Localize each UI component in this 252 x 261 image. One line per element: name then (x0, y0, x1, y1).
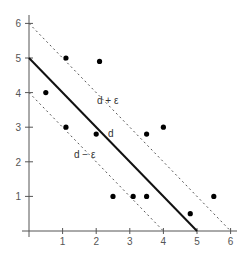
data-point (144, 194, 149, 199)
label-upper-band: d + ε (97, 95, 119, 106)
data-point (131, 194, 136, 199)
x-tick-label: 5 (194, 236, 200, 247)
y-tick-label: 1 (15, 191, 21, 202)
center-line (29, 58, 197, 231)
label-lower-band: d − ε (74, 149, 96, 160)
y-tick-label: 5 (15, 53, 21, 64)
data-point (110, 194, 115, 199)
y-tick-label: 2 (15, 157, 21, 168)
x-tick-label: 2 (93, 236, 99, 247)
label-center-line: d (108, 128, 114, 139)
data-point (94, 132, 99, 137)
data-point (63, 55, 68, 60)
data-point (97, 59, 102, 64)
band-line (29, 23, 231, 231)
data-point (188, 211, 193, 216)
data-point (211, 194, 216, 199)
y-tick-label: 3 (15, 122, 21, 133)
regression-lines (29, 23, 231, 231)
y-tick-label: 6 (15, 18, 21, 29)
band-line (29, 93, 163, 231)
data-point (43, 90, 48, 95)
y-tick-label: 4 (15, 88, 21, 99)
x-tick-label: 3 (127, 236, 133, 247)
data-point (161, 125, 166, 130)
x-tick-label: 4 (161, 236, 167, 247)
x-tick-label: 1 (60, 236, 66, 247)
y-ticks: 123456 (15, 18, 33, 202)
data-points (43, 55, 216, 216)
scatter-chart: 123456 123456 d + ε d d − ε (0, 0, 252, 261)
data-point (144, 132, 149, 137)
x-tick-label: 6 (228, 236, 234, 247)
data-point (63, 125, 68, 130)
